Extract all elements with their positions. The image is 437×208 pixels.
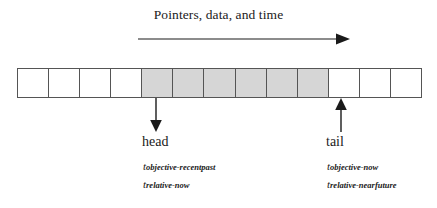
array-cell [267,69,298,97]
array-cell [391,69,421,97]
tail-time-annotations: tobjective-now trelative-nearfuture [327,158,397,194]
head-time-annotations: tobjective-recentpast trelative-now [143,158,215,194]
up-arrow-icon [331,98,351,132]
tail-time-line: tobjective-now [327,158,397,176]
head-time-line: tobjective-recentpast [143,158,215,176]
time-subscript: relative-now [146,180,189,190]
tail-pointer-label: tail [326,134,344,150]
time-direction-arrow [138,30,350,48]
head-pointer-arrow [146,98,166,132]
array-cell [329,69,360,97]
head-pointer-label: head [142,134,168,150]
array-cell [298,69,329,97]
head-time-line: trelative-now [143,176,215,194]
array-cell [142,69,173,97]
array-cell [360,69,391,97]
time-subscript: objective-now [330,162,378,172]
tail-pointer-arrow [331,98,351,132]
pointers-data-time-diagram: Pointers, data, and time head tobjec [0,0,437,208]
array-cell [204,69,235,97]
array-cell [18,69,49,97]
array-cell [80,69,111,97]
array-cell [49,69,80,97]
array-cell [236,69,267,97]
time-subscript: objective-recentpast [146,162,215,172]
diagram-title: Pointers, data, and time [0,7,437,23]
array-cell [111,69,142,97]
array-cell [173,69,204,97]
right-arrow-icon [138,30,350,48]
tail-time-line: trelative-nearfuture [327,176,397,194]
buffer-array [17,68,422,98]
down-arrow-icon [146,98,166,132]
time-subscript: relative-nearfuture [330,180,397,190]
